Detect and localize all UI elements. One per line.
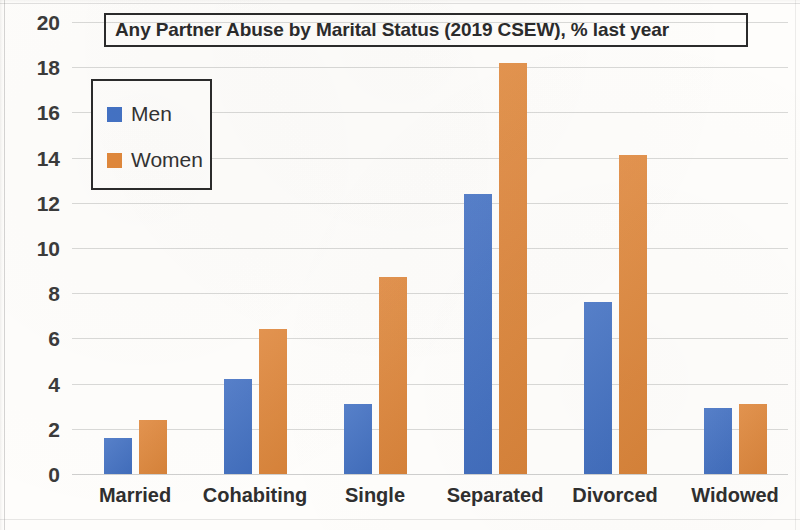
chart-title-box: Any Partner Abuse by Marital Status (201… bbox=[104, 13, 748, 47]
gridline-6 bbox=[72, 338, 788, 339]
y-axis-tick-label: 18 bbox=[14, 57, 60, 78]
women-color-swatch bbox=[107, 153, 122, 168]
gridline-0 bbox=[72, 474, 788, 475]
x-axis-label-married: Married bbox=[99, 484, 171, 507]
legend-label-women: Women bbox=[131, 148, 203, 172]
y-axis-tick-label: 2 bbox=[14, 418, 60, 439]
chart-legend: Men Women bbox=[91, 79, 212, 190]
gridline-10 bbox=[72, 248, 788, 249]
legend-item-men: Men bbox=[107, 95, 210, 133]
scan-edge-line-right bbox=[795, 0, 796, 530]
bar-men-widowed bbox=[704, 408, 732, 474]
scanned-chart-page: 02468101214161820 MarriedCohabitingSingl… bbox=[0, 0, 800, 530]
x-axis-label-widowed: Widowed bbox=[691, 484, 779, 507]
x-axis-label-cohabiting: Cohabiting bbox=[203, 484, 307, 507]
y-axis-tick-label: 0 bbox=[14, 464, 60, 485]
bar-women-married bbox=[139, 420, 167, 474]
bar-women-divorced bbox=[619, 155, 647, 474]
bar-men-divorced bbox=[584, 302, 612, 474]
y-axis-tick-label: 8 bbox=[14, 283, 60, 304]
gridline-18 bbox=[72, 67, 788, 68]
scan-edge-line-bottom bbox=[0, 519, 800, 520]
legend-item-women: Women bbox=[107, 141, 210, 179]
y-axis-tick-label: 12 bbox=[14, 192, 60, 213]
bar-men-cohabiting bbox=[224, 379, 252, 474]
bar-group bbox=[344, 22, 407, 474]
men-color-swatch bbox=[107, 107, 122, 122]
gridline-8 bbox=[72, 293, 788, 294]
bar-women-separated bbox=[499, 63, 527, 474]
legend-label-men: Men bbox=[131, 102, 172, 126]
x-axis-label-divorced: Divorced bbox=[572, 484, 658, 507]
gridline-2 bbox=[72, 429, 788, 430]
y-axis-tick-label: 10 bbox=[14, 238, 60, 259]
y-axis-tick-label: 14 bbox=[14, 147, 60, 168]
scan-edge-line-left bbox=[4, 0, 5, 530]
bar-group bbox=[584, 22, 647, 474]
bar-men-married bbox=[104, 438, 132, 474]
gridline-12 bbox=[72, 203, 788, 204]
bar-women-single bbox=[379, 277, 407, 474]
bar-women-widowed bbox=[739, 404, 767, 474]
bar-group bbox=[704, 22, 767, 474]
chart-title: Any Partner Abuse by Marital Status (201… bbox=[115, 19, 669, 41]
y-axis-tick-label: 16 bbox=[14, 102, 60, 123]
bar-women-cohabiting bbox=[259, 329, 287, 474]
scan-edge-line-top bbox=[0, 3, 800, 4]
bar-men-separated bbox=[464, 194, 492, 474]
gridline-4 bbox=[72, 384, 788, 385]
bar-group bbox=[224, 22, 287, 474]
x-axis-label-separated: Separated bbox=[447, 484, 544, 507]
y-axis-tick-label: 4 bbox=[14, 373, 60, 394]
y-axis-tick-label: 20 bbox=[14, 12, 60, 33]
bar-group bbox=[464, 22, 527, 474]
bar-men-single bbox=[344, 404, 372, 474]
y-axis-tick-label: 6 bbox=[14, 328, 60, 349]
x-axis-label-single: Single bbox=[345, 484, 405, 507]
